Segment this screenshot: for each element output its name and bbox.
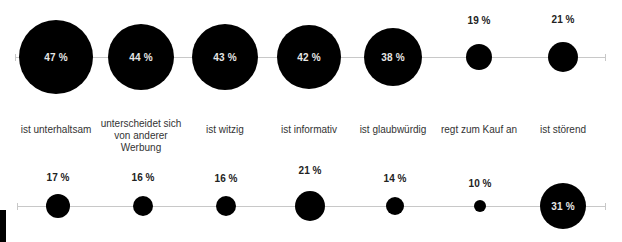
value-label: 16 %: [113, 172, 173, 183]
category-label: ist störend: [518, 124, 608, 136]
category-label: unterscheidet sich von anderer Werbung: [96, 118, 186, 154]
edge-bar: [0, 210, 6, 242]
bubble-unterhaltsam: 47 %: [19, 20, 93, 94]
category-label: ist witzig: [180, 124, 270, 136]
row-2-left-tick: [17, 203, 18, 210]
value-label-stoerend: 21 %: [533, 14, 593, 25]
bubble-glaubwuerdig: 38 %: [364, 28, 422, 86]
value-label: 44 %: [129, 52, 153, 63]
bubble-r2-6: [474, 200, 486, 212]
value-label: 47 %: [44, 52, 68, 63]
category-label: ist informativ: [264, 124, 354, 136]
row-1-left-tick: [15, 54, 16, 61]
value-label-kauf: 19 %: [449, 15, 509, 26]
bubble-informativ: 42 %: [277, 25, 341, 89]
category-label: regt zum Kauf an: [434, 124, 524, 136]
row-2-right-tick: [605, 203, 606, 210]
row-1-right-tick: [605, 54, 606, 61]
value-label: 42 %: [297, 52, 321, 63]
bubble-unterscheidet: 44 %: [108, 24, 174, 90]
value-label: 21 %: [280, 165, 340, 176]
bubble-r2-7: 31 %: [540, 183, 586, 229]
value-label: 16 %: [196, 173, 256, 184]
value-label: 14 %: [365, 173, 425, 184]
bubble-witzig: 43 %: [192, 24, 258, 90]
value-label: 10 %: [450, 178, 510, 189]
bubble-stoerend: [548, 42, 578, 72]
bubble-r2-2: [133, 196, 153, 216]
bubble-r2-4: [295, 191, 325, 221]
category-label: ist glaubwürdig: [348, 124, 438, 136]
bubble-kauf: [466, 44, 492, 70]
value-label: 38 %: [381, 52, 405, 63]
category-label: ist unterhaltsam: [11, 124, 101, 136]
bubble-r2-1: [46, 194, 70, 218]
value-label: 43 %: [213, 52, 237, 63]
value-label: 31 %: [551, 201, 575, 212]
bubble-r2-5: [386, 197, 404, 215]
value-label: 17 %: [28, 172, 88, 183]
bubble-r2-3: [216, 196, 236, 216]
